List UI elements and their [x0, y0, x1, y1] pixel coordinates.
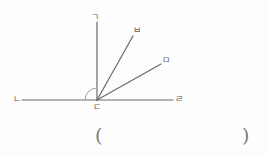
angle-arc-n-d-g: [85, 88, 97, 100]
vertex-label-d: ㄷ: [93, 103, 101, 112]
answer-open-paren: (: [95, 126, 102, 145]
point-label-r: ㄹ: [175, 95, 183, 104]
angle-diagram-canvas: [0, 0, 267, 157]
point-label-g: ㄱ: [91, 13, 99, 22]
point-label-n: ㄴ: [13, 95, 21, 104]
point-label-m: ㅁ: [162, 56, 170, 65]
diagram-screenshot: ㄱ ㅂ ㅁ ㄴ ㄷ ㄹ ( ): [0, 0, 267, 157]
answer-close-paren: ): [242, 126, 249, 145]
point-label-b: ㅂ: [133, 26, 141, 35]
